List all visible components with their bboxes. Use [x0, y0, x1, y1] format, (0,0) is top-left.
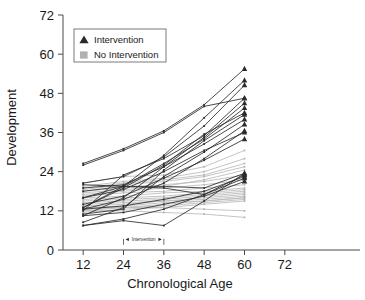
marker-triangle-i03: [242, 82, 247, 87]
marker-triangle-i14: [242, 136, 247, 141]
legend-label-0: Intervention: [94, 34, 144, 45]
chart-page: 0122436486072122436486072 Intervention I…: [0, 0, 365, 300]
span-left-arrow-icon: [126, 238, 129, 241]
marker-square-c12-0: [82, 205, 84, 207]
x-tick-label-36: 36: [157, 257, 171, 272]
marker-point-i12-2: [163, 182, 165, 184]
marker-square-c15-4: [244, 199, 246, 201]
marker-point-i09-1: [123, 208, 125, 210]
marker-point-i19-3: [203, 187, 205, 189]
marker-point-i07-3: [203, 138, 205, 140]
marker-square-c09-0: [82, 200, 84, 202]
marker-point-i05-0: [82, 210, 84, 212]
marker-square-c18-1: [123, 182, 125, 184]
marker-square-c02-3: [203, 171, 205, 173]
marker-point-i10-3: [203, 143, 205, 145]
marker-triangle-i19: [242, 170, 247, 175]
marker-point-i12-1: [123, 199, 125, 201]
marker-triangle-i07: [242, 105, 247, 110]
marker-square-c10-1: [123, 200, 125, 202]
marker-point-i20-2: [163, 187, 165, 189]
marker-triangle-i06: [242, 100, 247, 105]
y-tick-label-0: 0: [47, 243, 54, 258]
marker-square-c04-3: [203, 181, 205, 183]
marker-point-i08-0: [82, 207, 84, 209]
marker-square-c02-0: [82, 186, 84, 188]
marker-square-c17-3: [203, 179, 205, 181]
marker-square-c10-0: [82, 202, 84, 204]
marker-point-i17-0: [82, 208, 84, 210]
marker-point-i19-2: [163, 185, 165, 187]
marker-point-i14-1: [123, 195, 125, 197]
marker-point-i15-3: [203, 200, 205, 202]
marker-square-c16-3: [203, 203, 205, 205]
marker-point-i05-1: [123, 174, 125, 176]
marker-point-i15-1: [123, 220, 125, 222]
marker-point-i08-3: [203, 133, 205, 135]
marker-square-c06-4: [244, 184, 246, 186]
marker-point-i13-1: [123, 189, 125, 191]
marker-point-i04-2: [163, 132, 165, 134]
marker-square-c19-3: [203, 208, 205, 210]
marker-point-i09-0: [82, 213, 84, 215]
x-tick-label-48: 48: [197, 257, 211, 272]
marker-square-c16-4: [244, 200, 246, 202]
marker-point-i18-3: [203, 195, 205, 197]
marker-square-c06-2: [163, 190, 165, 192]
marker-point-i16-2: [163, 208, 165, 210]
marker-square-c09-4: [244, 190, 246, 192]
marker-square-c20-1: [123, 210, 125, 212]
marker-point-i16-1: [123, 218, 125, 220]
marker-point-i20-3: [203, 194, 205, 196]
marker-point-i01-2: [163, 130, 165, 132]
marker-square-c12-1: [123, 203, 125, 205]
marker-point-i03-1: [123, 176, 125, 178]
marker-point-i07-0: [82, 184, 84, 186]
marker-square-c10-4: [244, 192, 246, 194]
marker-square-c08-4: [244, 189, 246, 191]
marker-square-c18-4: [244, 163, 246, 165]
marker-point-i13-3: [203, 150, 205, 152]
y-tick-label-72: 72: [40, 8, 54, 23]
marker-point-i11-2: [163, 176, 165, 178]
marker-square-c06-1: [123, 192, 125, 194]
legend-square-icon: [80, 51, 88, 58]
marker-point-i02-2: [163, 154, 165, 156]
marker-square-c05-1: [123, 190, 125, 192]
marker-triangle-i11: [242, 121, 247, 126]
marker-point-i03-2: [163, 156, 165, 158]
marker-square-c20-2: [163, 212, 165, 214]
y-tick-label-36: 36: [40, 125, 54, 140]
marker-triangle-i10: [242, 116, 247, 121]
marker-point-i07-2: [163, 163, 165, 165]
marker-square-c08-0: [82, 199, 84, 201]
marker-point-i17-2: [163, 199, 165, 201]
marker-square-c01-2: [163, 174, 165, 176]
marker-square-c01-4: [244, 150, 246, 152]
marker-point-i11-1: [123, 207, 125, 209]
marker-square-c17-0: [82, 192, 84, 194]
marker-square-c05-3: [203, 184, 205, 186]
marker-point-i04-3: [203, 105, 205, 107]
marker-point-i08-2: [163, 164, 165, 166]
y-tick-label-12: 12: [40, 203, 54, 218]
marker-point-i14-0: [82, 203, 84, 205]
marker-square-c06-0: [82, 195, 84, 197]
x-tick-label-12: 12: [76, 257, 90, 272]
marker-square-c02-4: [244, 158, 246, 160]
marker-point-i17-1: [123, 205, 125, 207]
development-vs-age-line-chart: 0122436486072122436486072 Intervention I…: [0, 0, 365, 300]
marker-triangle-i05: [242, 95, 247, 100]
intervention-span-annotation: Intervention: [124, 237, 164, 245]
marker-point-i02-3: [203, 117, 205, 119]
x-tick-label-72: 72: [278, 257, 292, 272]
marker-square-c11-3: [203, 197, 205, 199]
marker-square-c11-4: [244, 194, 246, 196]
marker-point-i20-1: [123, 185, 125, 187]
y-tick-label-48: 48: [40, 86, 54, 101]
marker-point-i10-0: [82, 187, 84, 189]
marker-point-i06-1: [123, 197, 125, 199]
marker-point-i18-1: [123, 212, 125, 214]
marker-square-c20-3: [203, 213, 205, 215]
marker-square-c03-3: [203, 176, 205, 178]
